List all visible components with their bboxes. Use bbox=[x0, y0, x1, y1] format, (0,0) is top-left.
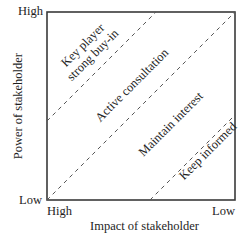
x-axis-high-label: High bbox=[47, 205, 72, 218]
stakeholder-matrix-diagram: High Low Power of stakeholder High Low I… bbox=[0, 0, 248, 241]
divider-line-middle bbox=[47, 12, 235, 200]
x-axis-low-label: Low bbox=[212, 205, 235, 218]
x-axis-title: Impact of stakeholder bbox=[90, 220, 199, 233]
y-axis-high-label: High bbox=[18, 5, 43, 18]
y-axis-title: Power of stakeholder bbox=[11, 51, 25, 161]
y-axis-low-label: Low bbox=[19, 194, 42, 207]
